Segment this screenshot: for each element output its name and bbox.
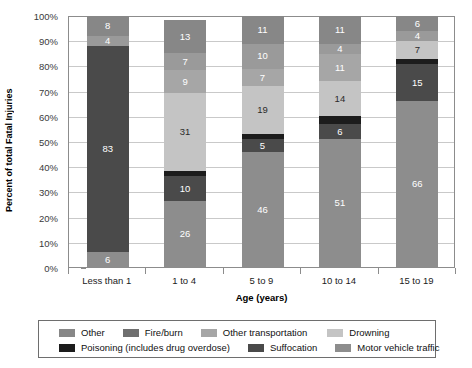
legend-swatch (335, 344, 351, 352)
x-axis-tick-mark (223, 268, 224, 274)
bar-group[interactable]: 6471566 (396, 16, 438, 267)
bar-segment-value: 6 (415, 19, 420, 29)
y-axis-tick-label: 40% (39, 162, 58, 173)
legend-row-1: OtherFire/burnOther transportationDrowni… (45, 325, 429, 340)
bar-segment-value: 13 (180, 32, 191, 42)
plot-area: 8483613793110261110719546114111465164715… (68, 16, 455, 268)
bar-group[interactable]: 1379311026 (164, 16, 206, 267)
legend-item[interactable]: Other transportation (201, 327, 308, 338)
bar-segment-value: 11 (335, 63, 345, 73)
legend-item[interactable]: Drowning (327, 327, 389, 338)
bar-segment-value: 7 (260, 73, 265, 83)
y-axis-title: Percent of total Fatal Injuries (2, 60, 16, 240)
legend-item[interactable]: Other (59, 327, 105, 338)
bar-segment-value: 11 (335, 25, 345, 35)
bar-segment-value: 83 (102, 144, 113, 154)
legend-item[interactable]: Fire/burn (123, 327, 183, 338)
bar-segment[interactable]: 26 (164, 201, 206, 267)
legend-swatch (201, 329, 217, 337)
legend-swatch (248, 344, 264, 352)
bar-segment-value: 46 (257, 205, 268, 215)
y-axis-tick-label: 10% (39, 237, 58, 248)
y-axis-tick-label: 60% (39, 111, 58, 122)
x-axis-tick-mark (300, 268, 301, 274)
bar-segment-value: 7 (182, 57, 187, 67)
bar-segment-value: 4 (337, 44, 342, 54)
bar-segment-value: 15 (412, 78, 423, 88)
bar-segment-value: 4 (105, 36, 110, 46)
bars-layer: 8483613793110261110719546114111465164715… (69, 16, 454, 267)
bar-segment[interactable]: 83 (87, 46, 129, 252)
legend-item[interactable]: Suffocation (248, 342, 317, 353)
x-axis-tick-label: 1 to 4 (172, 275, 196, 286)
bar-segment[interactable]: 11 (242, 16, 284, 44)
legend-item[interactable]: Poisoning (includes drug overdose) (59, 342, 230, 353)
bar-segment[interactable]: 51 (319, 139, 361, 267)
bar-segment[interactable]: 8 (87, 16, 129, 36)
bar-segment[interactable]: 6 (319, 124, 361, 139)
bar-segment[interactable]: 66 (396, 101, 438, 267)
stacked-bar-chart: Percent of total Fatal Injuries 0%10%20%… (0, 0, 472, 368)
bar-segment-value: 19 (257, 105, 268, 115)
x-axis-tick-label: 5 to 9 (250, 275, 274, 286)
legend-label: Other (81, 327, 105, 338)
y-axis-tick-label: 50% (39, 137, 58, 148)
y-axis-tick-label: 0% (44, 263, 58, 274)
legend-swatch (123, 329, 139, 337)
legend-label: Fire/burn (145, 327, 183, 338)
bar-segment[interactable]: 4 (87, 36, 129, 46)
bar-group[interactable]: 84836 (87, 16, 129, 267)
x-axis-tick-label: 10 to 14 (322, 275, 356, 286)
legend-label: Motor vehicle traffic (357, 342, 439, 353)
bar-segment[interactable]: 4 (319, 44, 361, 54)
bar-segment[interactable]: 10 (242, 44, 284, 69)
bar-segment[interactable]: 6 (87, 252, 129, 267)
bar-segment-value: 31 (180, 127, 191, 137)
bar-group[interactable]: 1110719546 (242, 16, 284, 267)
bar-segment[interactable] (319, 116, 361, 124)
chart-legend: OtherFire/burnOther transportationDrowni… (38, 320, 436, 358)
legend-swatch (59, 329, 75, 337)
legend-item[interactable]: Motor vehicle traffic (335, 342, 439, 353)
x-axis-tick-labels: Less than 11 to 45 to 910 to 1415 to 19 (68, 275, 455, 289)
legend-label: Suffocation (270, 342, 317, 353)
legend-swatch (327, 329, 343, 337)
bar-segment[interactable]: 19 (242, 86, 284, 134)
y-axis-tick-label: 20% (39, 212, 58, 223)
bar-segment[interactable]: 7 (396, 41, 438, 59)
x-axis-tick-mark (455, 268, 456, 274)
bar-segment[interactable]: 5 (242, 139, 284, 152)
bar-group[interactable]: 1141114651 (319, 16, 361, 267)
legend-row-2: Poisoning (includes drug overdose)Suffoc… (45, 340, 429, 355)
x-axis-tick-label: 15 to 19 (399, 275, 433, 286)
y-axis-tick-label: 100% (34, 11, 58, 22)
bar-segment[interactable]: 6 (396, 16, 438, 31)
bar-segment-value: 4 (415, 31, 420, 41)
bar-segment[interactable]: 14 (319, 81, 361, 116)
bar-segment[interactable]: 7 (164, 53, 206, 71)
x-axis-tick-mark (378, 268, 379, 274)
y-axis-tick-label: 30% (39, 187, 58, 198)
bar-segment[interactable]: 11 (319, 54, 361, 82)
y-axis-tick-labels: 0%10%20%30%40%50%60%70%80%90%100% (18, 0, 66, 300)
bar-segment[interactable]: 31 (164, 93, 206, 171)
bar-segment-value: 8 (105, 21, 110, 31)
x-axis-title: Age (years) (68, 292, 455, 303)
bar-segment[interactable]: 4 (396, 31, 438, 41)
legend-swatch (59, 344, 75, 352)
bar-segment[interactable]: 13 (164, 20, 206, 53)
bar-segment[interactable]: 9 (164, 70, 206, 93)
bar-segment[interactable]: 15 (396, 64, 438, 102)
bar-segment-value: 6 (337, 127, 342, 137)
legend-label: Poisoning (includes drug overdose) (81, 342, 230, 353)
bar-segment-value: 10 (180, 184, 191, 194)
bar-segment-value: 14 (335, 94, 346, 104)
bar-segment[interactable]: 7 (242, 69, 284, 87)
bar-segment[interactable]: 11 (319, 16, 361, 44)
bar-segment[interactable]: 46 (242, 152, 284, 267)
x-axis-tick-mark (68, 268, 69, 274)
y-axis-tick-label: 90% (39, 36, 58, 47)
bar-segment-value: 5 (260, 141, 265, 151)
bar-segment[interactable]: 10 (164, 176, 206, 201)
y-axis-tick-label: 70% (39, 86, 58, 97)
